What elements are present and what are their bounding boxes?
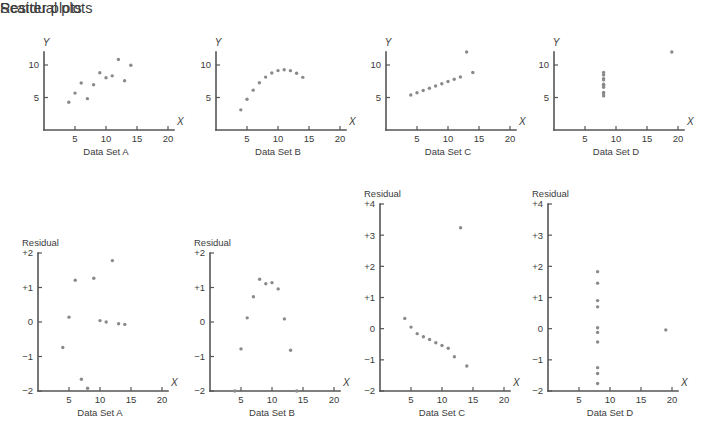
svg-text:20: 20 [335, 133, 346, 144]
svg-text:−1: −1 [194, 351, 205, 362]
svg-text:15: 15 [304, 133, 315, 144]
svg-text:10: 10 [267, 394, 278, 405]
svg-text:15: 15 [298, 394, 309, 405]
svg-text:X: X [686, 116, 694, 127]
residual-plots-heading: Residual plots [0, 0, 92, 16]
svg-text:Data Set D: Data Set D [587, 407, 634, 418]
svg-text:+2: +2 [194, 247, 205, 258]
svg-text:−2: −2 [532, 385, 543, 396]
svg-text:10: 10 [370, 59, 381, 70]
data-points [596, 270, 668, 385]
svg-text:Residual: Residual [532, 188, 569, 199]
residual-plot-data-set-b: 5101520−2−10+1+2XResidualData Set B [180, 235, 356, 425]
svg-text:10: 10 [28, 59, 39, 70]
svg-text:X: X [170, 377, 178, 388]
scatter-plot-data-set-d: 5101520510XYData Set D [528, 36, 704, 164]
svg-text:Residual: Residual [364, 188, 401, 199]
svg-text:Data Set B: Data Set B [249, 407, 295, 418]
svg-text:20: 20 [157, 394, 168, 405]
svg-text:5: 5 [244, 133, 249, 144]
svg-text:5: 5 [376, 92, 381, 103]
svg-text:0: 0 [28, 316, 33, 327]
svg-text:5: 5 [34, 92, 39, 103]
data-points [602, 50, 674, 97]
svg-text:5: 5 [66, 394, 71, 405]
svg-text:10: 10 [611, 133, 622, 144]
svg-text:0: 0 [538, 323, 543, 334]
data-points [409, 50, 474, 96]
data-points [61, 259, 126, 390]
svg-text:5: 5 [576, 394, 581, 405]
data-points [233, 278, 298, 393]
svg-text:+1: +1 [532, 292, 543, 303]
data-points [67, 58, 132, 104]
svg-text:−2: −2 [364, 385, 375, 396]
residual-plot-data-set-c: 5101520−2−10+1+2+3+4XResidualData Set C [350, 186, 526, 425]
svg-text:20: 20 [163, 133, 174, 144]
svg-text:+1: +1 [22, 282, 33, 293]
svg-text:X: X [348, 116, 356, 127]
svg-text:10: 10 [273, 133, 284, 144]
svg-text:X: X [518, 116, 526, 127]
svg-text:−2: −2 [194, 385, 205, 396]
svg-text:0: 0 [200, 316, 205, 327]
svg-text:+1: +1 [364, 292, 375, 303]
svg-text:+2: +2 [532, 261, 543, 272]
svg-text:0: 0 [370, 323, 375, 334]
svg-text:+3: +3 [532, 230, 543, 241]
svg-text:X: X [680, 377, 688, 388]
svg-text:+2: +2 [22, 247, 33, 258]
svg-text:Y: Y [43, 37, 51, 48]
svg-text:20: 20 [329, 394, 340, 405]
scatter-plot-data-set-b: 5101520510XYData Set B [190, 36, 366, 164]
svg-text:10: 10 [101, 133, 112, 144]
svg-text:Data Set C: Data Set C [419, 407, 466, 418]
svg-text:15: 15 [636, 394, 647, 405]
svg-text:+2: +2 [364, 261, 375, 272]
svg-text:Data Set A: Data Set A [77, 407, 123, 418]
svg-text:X: X [176, 116, 184, 127]
svg-text:5: 5 [238, 394, 243, 405]
scatter-plot-data-set-c: 5101520510XYData Set C [360, 36, 536, 164]
svg-text:20: 20 [505, 133, 516, 144]
svg-text:−1: −1 [22, 351, 33, 362]
svg-text:10: 10 [200, 59, 211, 70]
svg-text:+4: +4 [532, 198, 543, 209]
svg-text:5: 5 [544, 92, 549, 103]
residual-plot-data-set-a: 5101520−2−10+1+2XResidualData Set A [8, 235, 184, 425]
svg-text:20: 20 [499, 394, 510, 405]
svg-text:5: 5 [72, 133, 77, 144]
svg-text:5: 5 [206, 92, 211, 103]
svg-text:10: 10 [437, 394, 448, 405]
data-points [403, 226, 468, 368]
svg-text:+1: +1 [194, 282, 205, 293]
svg-text:5: 5 [582, 133, 587, 144]
svg-text:X: X [342, 377, 350, 388]
svg-text:Residual: Residual [22, 237, 59, 248]
data-points [239, 68, 304, 111]
svg-text:−1: −1 [532, 354, 543, 365]
svg-text:20: 20 [667, 394, 678, 405]
residual-plot-data-set-d: 5101520−2−10+1+2+3+4XResidualData Set D [518, 186, 694, 425]
svg-text:+3: +3 [364, 230, 375, 241]
svg-text:20: 20 [673, 133, 684, 144]
svg-text:15: 15 [474, 133, 485, 144]
svg-text:Y: Y [215, 37, 223, 48]
svg-text:−1: −1 [364, 354, 375, 365]
svg-text:10: 10 [605, 394, 616, 405]
svg-text:Data Set D: Data Set D [593, 146, 640, 157]
svg-text:+4: +4 [364, 198, 375, 209]
svg-text:10: 10 [443, 133, 454, 144]
svg-text:10: 10 [538, 59, 549, 70]
svg-text:−2: −2 [22, 385, 33, 396]
svg-text:15: 15 [126, 394, 137, 405]
scatter-plot-data-set-a: 5101520510XYData Set A [18, 36, 194, 164]
svg-text:5: 5 [408, 394, 413, 405]
svg-text:5: 5 [414, 133, 419, 144]
svg-text:Data Set C: Data Set C [425, 146, 472, 157]
svg-text:Y: Y [553, 37, 561, 48]
svg-text:Residual: Residual [194, 237, 231, 248]
svg-text:10: 10 [95, 394, 106, 405]
svg-text:15: 15 [642, 133, 653, 144]
svg-text:15: 15 [468, 394, 479, 405]
